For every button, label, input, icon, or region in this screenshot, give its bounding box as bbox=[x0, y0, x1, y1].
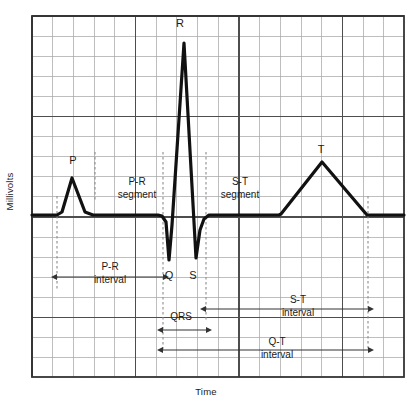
s-wave-label: S bbox=[189, 269, 196, 281]
pr-interval-label-line2: interval bbox=[94, 274, 126, 285]
p-wave-label: P bbox=[69, 154, 76, 166]
qt-interval-label-line1: Q-T bbox=[268, 336, 285, 347]
st-segment-label-line2: segment bbox=[221, 189, 260, 200]
ecg-diagram: PRQSTP-RsegmentS-TsegmentP-RintervalQRSS… bbox=[0, 0, 411, 405]
qt-interval-label-line2: interval bbox=[261, 349, 293, 360]
y-axis-label: Millivolts bbox=[4, 162, 15, 222]
st-interval-label-line2: interval bbox=[282, 307, 314, 318]
pr-segment-label-line2: segment bbox=[118, 189, 157, 200]
qrs-interval-label-line1: QRS bbox=[170, 311, 192, 322]
st-segment-label-line1: S-T bbox=[232, 176, 248, 187]
st-interval-label-line1: S-T bbox=[290, 294, 306, 305]
r-wave-label: R bbox=[176, 17, 184, 29]
t-wave-label: T bbox=[318, 143, 325, 155]
pr-interval-label-line1: P-R bbox=[101, 261, 118, 272]
x-axis-label: Time bbox=[176, 386, 236, 397]
pr-segment-label-line1: P-R bbox=[128, 176, 145, 187]
q-wave-label: Q bbox=[165, 269, 174, 281]
ecg-figure: PRQSTP-RsegmentS-TsegmentP-RintervalQRSS… bbox=[0, 0, 411, 405]
